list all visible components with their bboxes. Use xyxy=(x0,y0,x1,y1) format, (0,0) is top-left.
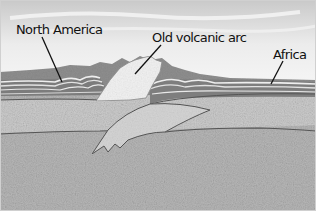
label-old-volcanic-arc: Old volcanic arc xyxy=(152,31,246,44)
geology-diagram: North America Old volcanic arc Africa xyxy=(0,0,316,211)
label-africa: Africa xyxy=(273,48,306,61)
label-north-america: North America xyxy=(16,23,102,36)
